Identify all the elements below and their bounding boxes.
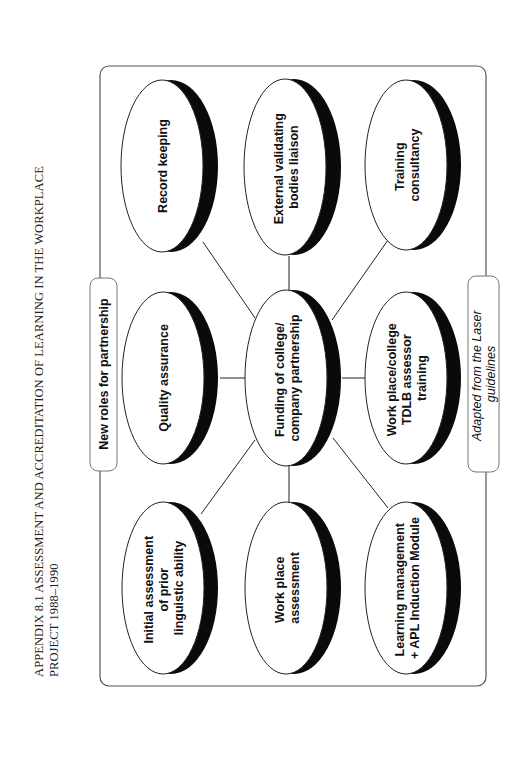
node-label: + APL Induction Module (408, 517, 422, 659)
appendix-diagram-page: APPENDIX 8.1 ASSESSMENT AND ACCREDITATIO… (0, 0, 508, 783)
node-label: assessment (288, 551, 302, 623)
frame-label-box: New roles for partnership (90, 278, 117, 471)
caption-box: Adapted from the Laser guidelines (468, 276, 499, 472)
connector-training-consultancy (332, 240, 388, 320)
node-label: Work place (273, 556, 287, 623)
node-center-funding: Funding of college/ company partnership (245, 290, 341, 466)
node-label: of prior (157, 568, 171, 612)
node-tdlb-training: Work place/college TDLB assessor trainin… (365, 292, 461, 464)
node-label: linguistic ability (172, 541, 186, 636)
node-label: TDLB assessor (400, 334, 414, 425)
svg-text:External validating bodi: External validating bodies liaison (272, 110, 301, 225)
title-line-2: PROJECT 1988–1990 (47, 563, 61, 677)
svg-text:Quality assurance: Quality assurance (157, 324, 171, 432)
node-label: External validating (272, 113, 286, 224)
node-external-validating: External validating bodies liaison (244, 79, 341, 255)
node-work-place-assessment: Work place assessment (245, 502, 341, 674)
connector-initial-assessment (201, 440, 255, 514)
caption-line: Adapted from the Laser (470, 310, 484, 442)
node-initial-assessment: Initial assessment of prior linguistic a… (122, 502, 218, 674)
node-training-consultancy: Training consultancy (365, 80, 461, 250)
node-learning-management: Learning management + APL Induction Modu… (365, 502, 461, 674)
svg-text:Record keeping: Record keeping (156, 119, 170, 213)
node-label: training (415, 355, 429, 401)
page-title: APPENDIX 8.1 ASSESSMENT AND ACCREDITATIO… (32, 166, 61, 677)
caption-line: guidelines (484, 346, 498, 402)
frame-label: New roles for partnership (97, 298, 111, 450)
node-label: Record keeping (156, 119, 170, 213)
node-quality-assurance: Quality assurance (122, 292, 218, 464)
node-label: Training (393, 142, 407, 191)
title-line-1: APPENDIX 8.1 ASSESSMENT AND ACCREDITATIO… (32, 166, 46, 677)
svg-text:Funding of college/ comp: Funding of college/ company partnership (273, 314, 302, 441)
node-label: Funding of college/ (273, 322, 287, 437)
connector-record-keeping (203, 242, 255, 318)
node-label: Quality assurance (157, 324, 171, 432)
node-record-keeping: Record keeping (121, 80, 218, 252)
node-label: company partnership (288, 314, 302, 441)
connector-learning-management (333, 438, 388, 508)
node-label: Initial assessment (142, 535, 156, 644)
svg-text:Learning management + AP: Learning management + APL Induction Modu… (393, 517, 422, 659)
node-label: Learning management (393, 522, 407, 656)
node-label: Work place/college (385, 323, 399, 436)
svg-text:Training consultancy: Training consultancy (393, 128, 422, 201)
node-label: consultancy (408, 128, 422, 201)
svg-text:Work place assessment: Work place assessment (273, 551, 302, 623)
node-label: bodies liaison (287, 125, 301, 208)
